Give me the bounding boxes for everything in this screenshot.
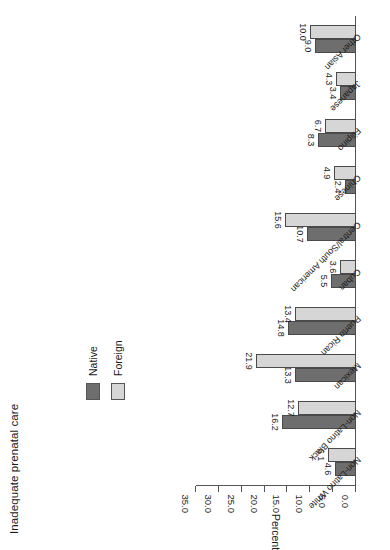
value-axis-tick-label: 25.0 bbox=[225, 495, 236, 514]
bar-group: 2.44.9Chinese bbox=[334, 157, 356, 204]
legend-item-label: Foreign bbox=[112, 340, 124, 376]
bar-value-label: 5.5 bbox=[319, 275, 329, 288]
legend-item-label: Native bbox=[87, 346, 99, 376]
legend-item[interactable]: Native bbox=[86, 340, 100, 400]
bar-group: 5.53.6Cuban bbox=[331, 251, 356, 298]
bar-value-label: 10.0 bbox=[298, 24, 308, 42]
legend-item[interactable]: Foreign bbox=[111, 340, 125, 400]
chart-title: Inadequate prenatal care bbox=[8, 404, 20, 534]
bar-foreign[interactable]: 21.9 bbox=[256, 355, 356, 369]
plot-area: Percent 0.05.010.015.020.025.030.035.04.… bbox=[196, 16, 356, 486]
bar-value-label: 4.6 bbox=[323, 463, 333, 476]
bar-value-label: 9.0 bbox=[303, 40, 313, 53]
value-axis-tick bbox=[355, 486, 356, 492]
bar-value-label: 4.3 bbox=[324, 73, 334, 86]
bar-foreign[interactable]: 13.4 bbox=[295, 308, 356, 322]
value-axis-tick bbox=[264, 486, 265, 492]
value-axis-tick bbox=[241, 486, 242, 492]
value-axis-tick bbox=[309, 486, 310, 492]
bar-group: 13.321.9Mexican bbox=[256, 345, 356, 392]
value-axis-tick-label: 35.0 bbox=[180, 495, 191, 514]
bar-value-label: 13.3 bbox=[283, 367, 293, 385]
value-axis-tick bbox=[286, 486, 287, 492]
bar-value-label: 3.6 bbox=[328, 261, 338, 274]
value-axis-tick-label: 30.0 bbox=[202, 495, 213, 514]
chart-legend: NativeForeign bbox=[86, 340, 136, 400]
bar-group: 14.813.4Puerto Rican bbox=[288, 298, 356, 345]
value-axis-tick-label: 10.0 bbox=[294, 495, 305, 514]
bar-value-label: 13.4 bbox=[283, 306, 293, 324]
value-axis-tick-label: 0.0 bbox=[340, 495, 351, 508]
bar-group: 3.44.3Japanese bbox=[336, 63, 356, 110]
chart-figure: Inadequate prenatal care NativeForeign P… bbox=[0, 0, 390, 550]
value-axis-tick bbox=[218, 486, 219, 492]
value-axis-tick bbox=[195, 486, 196, 492]
bar-value-label: 8.3 bbox=[306, 134, 316, 147]
bar-value-label: 10.7 bbox=[295, 226, 305, 244]
bar-value-label: 21.9 bbox=[244, 353, 254, 371]
bar-group: 8.36.7Filipino bbox=[318, 110, 356, 157]
bar-group: 10.715.6Central/South American bbox=[285, 204, 356, 251]
value-axis-title: Percent bbox=[270, 514, 282, 550]
value-axis-tick-label: 15.0 bbox=[271, 495, 282, 514]
bar-group: 16.212.7Non-Latino Black bbox=[282, 392, 356, 439]
chart-canvas: Inadequate prenatal care NativeForeign P… bbox=[0, 0, 390, 550]
bar-value-label: 16.2 bbox=[270, 414, 280, 432]
bar-foreign[interactable]: 12.7 bbox=[298, 402, 356, 416]
bar-foreign[interactable]: 15.6 bbox=[285, 214, 356, 228]
bar-value-label: 6.7 bbox=[313, 120, 323, 133]
bar-value-label: 12.7 bbox=[286, 400, 296, 418]
bar-value-label: 15.6 bbox=[273, 212, 283, 230]
bar-group: 9.010.0Other Asian bbox=[310, 16, 356, 63]
bar-value-label: 4.9 bbox=[322, 167, 332, 180]
bar-group: 4.66.1Non-Latino White bbox=[328, 439, 356, 486]
legend-swatch-icon bbox=[86, 383, 100, 400]
value-axis-tick-label: 20.0 bbox=[248, 495, 259, 514]
legend-swatch-icon bbox=[111, 383, 125, 400]
